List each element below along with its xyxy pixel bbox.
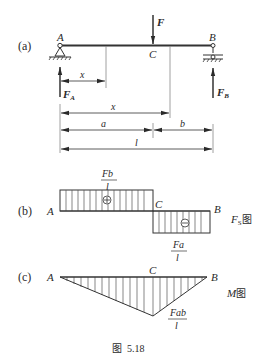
shear-point-c-label: C bbox=[155, 198, 163, 210]
panel-b-shear-diagram: (b) A C B Fb l bbox=[18, 168, 252, 263]
dim-a-label: a bbox=[101, 118, 106, 129]
dim-b-label: b bbox=[180, 118, 185, 129]
point-a-label: A bbox=[56, 31, 64, 43]
point-b-label: B bbox=[209, 31, 216, 43]
shear-negative-region bbox=[153, 211, 210, 233]
load-label: F bbox=[156, 16, 165, 28]
shear-positive-region bbox=[60, 190, 153, 211]
dim-x-short-label: x bbox=[79, 69, 85, 80]
beam-diagram-figure: (a) A B F C FA FB bbox=[0, 0, 265, 362]
moment-max-denominator: l bbox=[175, 320, 178, 331]
shear-neg-numerator: Fa bbox=[172, 239, 184, 250]
shear-neg-denominator: l bbox=[176, 252, 179, 263]
shear-diagram-name: FS图 bbox=[230, 213, 252, 227]
panel-a-label: (a) bbox=[18, 39, 31, 53]
moment-max-numerator: Fab bbox=[169, 307, 186, 318]
panel-c-moment-diagram: (c) A C B bbox=[18, 264, 246, 331]
moment-diagram-name: M图 bbox=[226, 287, 246, 299]
reaction-a-label: FA bbox=[62, 88, 75, 102]
moment-point-a-label: A bbox=[46, 271, 54, 283]
moment-point-b-label: B bbox=[211, 271, 218, 283]
shear-point-b-label: B bbox=[214, 203, 221, 215]
shear-pos-numerator: Fb bbox=[101, 168, 113, 179]
figure-caption: 图 5.18 bbox=[112, 343, 145, 354]
panel-b-label: (b) bbox=[18, 204, 32, 218]
panel-a-beam: (a) A B F C FA FB bbox=[18, 15, 229, 153]
dim-x-long-label: x bbox=[110, 101, 116, 112]
point-c-label: C bbox=[149, 48, 157, 60]
shear-point-a-label: A bbox=[46, 205, 54, 217]
panel-c-label: (c) bbox=[18, 270, 31, 284]
shear-pos-denominator: l bbox=[106, 181, 109, 192]
reaction-b-label: FB bbox=[216, 86, 229, 100]
moment-point-c-label: C bbox=[149, 264, 157, 276]
dim-l-label: l bbox=[135, 137, 138, 148]
